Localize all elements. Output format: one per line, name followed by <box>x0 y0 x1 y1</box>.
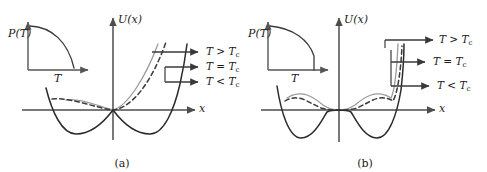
inset-x-label-a: T <box>54 73 61 84</box>
legend-above-tc-a-sub: c <box>235 50 239 59</box>
x-axis-label-b: x <box>439 103 445 114</box>
legend-above-tc-a-text: T > T <box>206 45 235 57</box>
legend-at-tc-a-text: T = T <box>206 60 235 72</box>
inset-curve-a <box>30 26 74 68</box>
legend-below-tc-b-sub: c <box>466 84 470 93</box>
curve-below-tc-b <box>277 44 404 138</box>
legend-below-tc-b: T < Tc <box>437 80 470 92</box>
legend-at-tc-b-sub: c <box>462 60 466 69</box>
panel-a-axes <box>22 18 195 140</box>
panel-b: U(x) x P(T) T T > Tc T = Tc T < Tc (b) <box>243 0 487 172</box>
inset-y-label-a: P(T) <box>8 28 31 39</box>
legend-above-tc-b-sub: c <box>468 38 472 47</box>
panel-b-caption: (b) <box>243 157 487 170</box>
legend-at-tc-b-text: T = T <box>433 55 462 67</box>
legend-below-tc-a-text: T < T <box>206 75 235 87</box>
inset-y-label-b: P(T) <box>248 28 271 39</box>
legend-below-tc-a-sub: c <box>235 80 239 89</box>
curve-above-tc-a <box>66 44 158 110</box>
legend-below-tc-b-text: T < T <box>437 79 466 91</box>
x-axis-label-a: x <box>199 103 205 114</box>
legend-at-tc-a: T = Tc <box>206 61 239 73</box>
y-axis-label-b: U(x) <box>344 14 368 25</box>
legend-above-tc-a: T > Tc <box>206 46 239 58</box>
legend-below-tc-a: T < Tc <box>206 76 239 88</box>
y-axis-label-a: U(x) <box>118 14 142 25</box>
panel-a-caption: (a) <box>0 157 244 170</box>
curve-below-tc-a <box>46 44 187 134</box>
curve-at-tc-b <box>285 46 402 110</box>
panel-a: U(x) x P(T) T T > Tc T = Tc T < Tc (a) <box>0 0 244 172</box>
inset-x-label-b: T <box>291 73 298 84</box>
inset-curve-b <box>270 26 314 70</box>
panel-b-inset <box>268 22 328 70</box>
panel-a-legend-leaders <box>152 52 198 82</box>
legend-at-tc-a-sub: c <box>235 65 239 74</box>
figure-root: U(x) x P(T) T T > Tc T = Tc T < Tc (a) <box>0 0 487 172</box>
legend-at-tc-b: T = Tc <box>433 56 466 68</box>
legend-above-tc-b-text: T > T <box>439 33 468 45</box>
panel-b-legend-leaders <box>385 40 433 86</box>
legend-above-tc-b: T > Tc <box>439 34 472 46</box>
panel-a-inset <box>28 22 88 70</box>
